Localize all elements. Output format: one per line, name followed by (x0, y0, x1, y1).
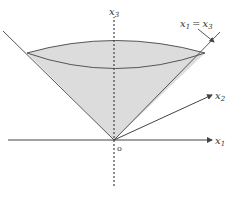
x3-axis-label: x3 (109, 6, 120, 19)
cone-shaded-region (27, 41, 205, 141)
x2-axis-label: x2 (215, 90, 226, 103)
cone-diagram: x3 x1 x2 o x1=x3 (0, 0, 233, 197)
x1-axis-label: x1 (215, 135, 225, 148)
cone-equation-label: x1=x3 (180, 18, 213, 31)
origin-label: o (117, 144, 122, 153)
